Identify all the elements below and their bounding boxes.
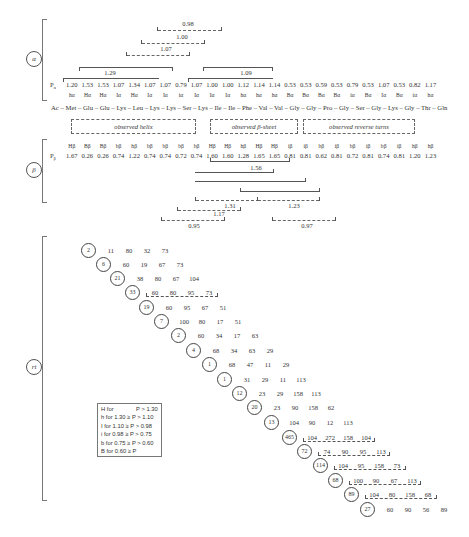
turn-value: 67 xyxy=(167,275,185,282)
legend-item: B for 0.60 ≥ P xyxy=(101,447,158,455)
turn-value: 31 xyxy=(238,376,256,383)
alpha-value: 0.53 xyxy=(329,81,345,88)
alpha-value: 1.14 xyxy=(267,81,283,88)
legend-item: I for 1.10 ≥ P > 0.98 xyxy=(101,422,158,430)
beta-conformation: Hβ xyxy=(204,143,220,149)
turn-circled-value: 7 xyxy=(154,314,169,329)
beta-bracket-label: 0.97 xyxy=(297,222,317,229)
turn-row: 6 60196773 xyxy=(96,257,189,272)
beta-value: 0.74 xyxy=(111,152,127,159)
beta-bracket-label: 1.56 xyxy=(246,164,266,171)
turn-value: 113 xyxy=(403,477,421,484)
turn-circled-value: 4 xyxy=(186,343,201,358)
beta-bracket-label: 0.95 xyxy=(184,222,204,229)
turn-value: 73 xyxy=(171,261,189,268)
beta-row-label: Pβ xyxy=(50,152,56,161)
alpha-conformation: Hα xyxy=(80,92,96,98)
alpha-value: 0.53 xyxy=(391,81,407,88)
turn-circled-value: 1 xyxy=(202,357,217,372)
turn-row: 12 2329158113 xyxy=(232,386,325,401)
alpha-value: 0.53 xyxy=(298,81,314,88)
turn-value: 104 xyxy=(303,434,321,441)
alpha-value: 1.14 xyxy=(251,81,267,88)
turn-value: 32 xyxy=(138,247,156,254)
alpha-value: 0.79 xyxy=(345,81,361,88)
beta-values-row: 1.67 0.26 0.26 0.74 1.22 0.74 0.74 0.72 … xyxy=(64,152,438,159)
beta-conformation: hβ xyxy=(423,143,439,149)
beta-conformation: hβ xyxy=(407,143,423,149)
turn-value: 90 xyxy=(303,419,321,426)
beta-bracket-label: 1.23 xyxy=(284,202,304,209)
beta-conformation: bβ xyxy=(314,143,330,149)
turn-value: 60 xyxy=(160,304,178,311)
turn-value: 104 xyxy=(357,434,375,441)
turn-circled-value: 72 xyxy=(297,444,312,459)
beta-value: 0.81 xyxy=(329,152,345,159)
alpha-value: 0.53 xyxy=(282,81,298,88)
turn-value: 11 xyxy=(102,247,120,254)
turn-row: 7 100801751 xyxy=(154,314,247,329)
turn-value: 80 xyxy=(120,247,138,254)
turn-value: 34 xyxy=(210,332,228,339)
alpha-conformation: Bα xyxy=(391,92,407,98)
amino-acid-sequence: Ac – Met – Glu – Glu – Lys – Leu – Lys –… xyxy=(51,104,447,111)
turn-row: 4 68346329 xyxy=(186,343,279,358)
legend-item: i for 0.98 ≥ P > 0.75 xyxy=(101,430,158,438)
beta-value: 0.74 xyxy=(189,152,205,159)
beta-bracket-0-95 xyxy=(162,220,224,221)
alpha-value: 1.20 xyxy=(64,81,80,88)
turn-circled-value: 2 xyxy=(81,243,96,258)
turn-value: 60 xyxy=(192,332,210,339)
beta-conformation: bβ xyxy=(189,143,205,149)
beta-value: 0.81 xyxy=(360,152,376,159)
alpha-value: 0.79 xyxy=(173,81,189,88)
beta-value: 1.65 xyxy=(251,152,267,159)
alpha-bracket-label: 1.07 xyxy=(156,45,176,52)
turn-value: 73 xyxy=(200,289,218,296)
turn-circled-value: 27 xyxy=(360,502,375,517)
alpha-conformation: Iα xyxy=(142,92,158,98)
turn-row: 13 1049012113 xyxy=(264,415,357,430)
alpha-conformation: Hα xyxy=(95,92,111,98)
turn-value: 272 xyxy=(321,434,339,441)
turn-value: 17 xyxy=(211,318,229,325)
turn-value: 90 xyxy=(367,477,385,484)
turn-value: 95 xyxy=(354,448,372,455)
beta-bracket-1-23 xyxy=(258,200,319,201)
turn-value: 104 xyxy=(334,462,352,469)
turn-value: 68 xyxy=(223,361,241,368)
beta-conformation: Bβ xyxy=(95,143,111,149)
turn-row: 21 388067104 xyxy=(110,271,203,286)
turn-value: 113 xyxy=(339,419,357,426)
turn-value: 38 xyxy=(131,275,149,282)
turn-value: 158 xyxy=(289,390,307,397)
alpha-value: 0.82 xyxy=(407,81,423,88)
conformation-legend: H for P > 1.30 h for 1.30 ≥ P > 1.10 I f… xyxy=(97,403,162,457)
turn-value: 90 xyxy=(336,448,354,455)
beta-conformation: bβ xyxy=(376,143,392,149)
turn-value: 100 xyxy=(175,318,193,325)
turn-value: 60 xyxy=(381,506,399,513)
beta-conformation: hβ xyxy=(236,143,252,149)
alpha-conformation: Bα xyxy=(282,92,298,98)
legend-item: h for 1.30 ≥ P > 1.10 xyxy=(101,413,158,421)
alpha-bracket-1-09 xyxy=(204,67,272,68)
alpha-bracket-label: 1.29 xyxy=(100,69,120,76)
beta-value: 0.72 xyxy=(345,152,361,159)
turn-row: 20 239015862 xyxy=(247,400,340,415)
turn-circled-value: 114 xyxy=(313,458,328,473)
beta-conformation: bβ xyxy=(158,143,174,149)
turn-value: 29 xyxy=(261,347,279,354)
alpha-value: 1.17 xyxy=(423,81,439,88)
turn-value: 62 xyxy=(322,404,340,411)
observed-helix-box: observed helix xyxy=(71,119,196,134)
turn-value: 67 xyxy=(385,477,403,484)
alpha-conformation: hα xyxy=(236,92,252,98)
turn-value: 104 xyxy=(285,419,303,426)
turn-value: 104 xyxy=(185,275,203,282)
turn-row: 72 749095113 xyxy=(297,444,390,459)
turn-value: 158 xyxy=(401,491,419,498)
alpha-value: 1.00 xyxy=(204,81,220,88)
turn-value: 63 xyxy=(243,347,261,354)
beta-conformation: hβ xyxy=(126,143,142,149)
